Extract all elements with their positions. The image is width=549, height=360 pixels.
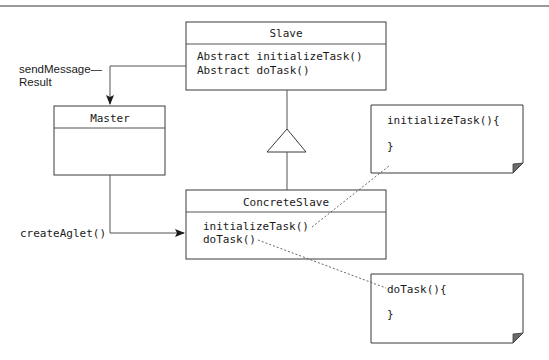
note-text: } — [387, 308, 394, 321]
note-text: doTask(){ — [387, 283, 447, 296]
class-concrete-slave-name: ConcreteSlave — [243, 196, 329, 209]
note-fold-icon — [513, 333, 523, 343]
note-fold-icon — [513, 163, 523, 173]
class-concrete-slave-method: initializeTask() — [203, 220, 309, 233]
class-master[interactable]: Master — [54, 106, 165, 175]
create-aglet-arrow — [110, 175, 184, 233]
class-slave-method: Abstract doTask() — [197, 64, 310, 77]
uml-diagram: Slave Abstract initializeTask() Abstract… — [0, 0, 549, 360]
inheritance-relation — [267, 90, 306, 190]
inheritance-triangle-icon — [267, 129, 306, 152]
result-label: Result — [19, 76, 52, 88]
send-message-arrow — [110, 66, 186, 104]
note-text: initializeTask(){ — [387, 114, 500, 127]
create-aglet-label: createAglet() — [20, 227, 106, 240]
send-message-label: sendMessage— — [19, 63, 103, 75]
class-slave[interactable]: Slave Abstract initializeTask() Abstract… — [186, 22, 386, 90]
note-do-task[interactable]: doTask(){ } — [371, 274, 523, 343]
class-master-name: Master — [90, 112, 130, 125]
class-slave-name: Slave — [269, 27, 302, 40]
send-message-association: sendMessage— Result — [19, 63, 186, 104]
class-concrete-slave[interactable]: ConcreteSlave initializeTask() doTask() — [186, 190, 386, 259]
note-initialize-task[interactable]: initializeTask(){ } — [371, 105, 523, 173]
create-aglet-association: createAglet() — [20, 175, 184, 240]
class-concrete-slave-method: doTask() — [203, 233, 256, 246]
note-text: } — [387, 140, 394, 153]
class-slave-method: Abstract initializeTask() — [197, 50, 363, 63]
